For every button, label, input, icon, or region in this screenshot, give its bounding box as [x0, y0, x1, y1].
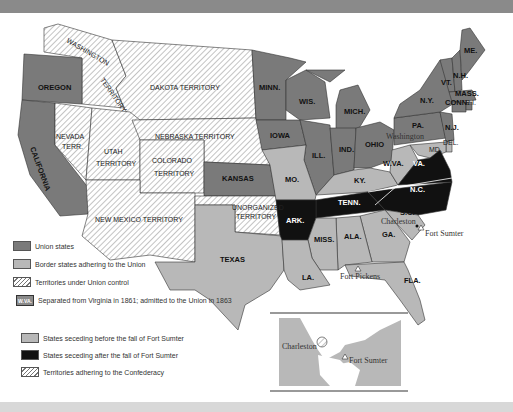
label-del: DEL.	[443, 139, 459, 146]
charleston-inset: Charleston Fort Sumter	[270, 313, 408, 391]
label-unorganized-2: TERRITORY	[236, 213, 277, 220]
colorado-territory	[140, 140, 204, 193]
label-wis: WIS.	[299, 97, 315, 106]
label-washington-city: Washington	[386, 132, 424, 141]
charleston-dot	[416, 225, 419, 228]
legend-label-union: Union states	[35, 243, 74, 250]
swatch-border	[13, 259, 31, 269]
legend-label-territories-confederacy: Territories adhering to the Confederacy	[43, 369, 164, 376]
label-mass: MASS.	[455, 89, 479, 98]
label-mich: MICH.	[344, 107, 365, 116]
label-colorado-2: TERRITORY	[154, 170, 195, 177]
label-sc: S.C.	[400, 208, 415, 217]
label-charleston: Charleston	[381, 217, 416, 226]
wva-badge: W.VA.	[16, 295, 34, 306]
inset-label-charleston: Charleston	[282, 342, 317, 351]
label-iowa: IOWA	[270, 131, 291, 140]
oregon	[22, 54, 82, 104]
label-va: VA.	[413, 159, 425, 168]
dakota-territory	[112, 40, 256, 120]
legend-wva: W.VA. Separated from Virginia in 1861; a…	[16, 295, 232, 306]
label-ri: R.I.	[465, 99, 476, 106]
label-nevada: NEVADA	[56, 133, 85, 140]
utah-territory	[86, 108, 140, 180]
label-ark: ARK.	[286, 216, 304, 225]
swatch-territories-confederacy	[21, 367, 39, 377]
legend-label-seceding-after: States seceding after the fall of Fort S…	[43, 352, 178, 359]
label-md: MD.	[429, 146, 442, 153]
label-ohio: OHIO	[365, 140, 384, 149]
legend-label-wva: Separated from Virginia in 1861; admitte…	[38, 297, 232, 304]
bottom-border	[0, 402, 513, 412]
swatch-territories-union	[13, 277, 31, 287]
legend-territories-union: Territories under Union control	[13, 277, 129, 287]
legend-label-border: Border states adhering to the Union	[35, 261, 146, 268]
label-tenn: TENN.	[338, 198, 361, 207]
inset-label-fort-sumter: Fort Sumter	[349, 356, 388, 365]
label-pa: PA.	[412, 121, 424, 130]
legend-label-territories-union: Territories under Union control	[35, 279, 129, 286]
label-oregon: OREGON	[38, 83, 71, 92]
label-ala: ALA.	[344, 232, 362, 241]
label-nj: N.J.	[445, 123, 459, 132]
label-nevada-2: TERR.	[62, 143, 83, 150]
label-utah-2: TERRITORY	[96, 160, 137, 167]
label-fort-pickens: Fort Pickens	[340, 272, 380, 281]
label-dakota-territory: DAKOTA TERRITORY	[150, 84, 220, 91]
legend-border-states: Border states adhering to the Union	[13, 259, 146, 269]
label-nebraska-territory: NEBRASKA TERRITORY	[155, 133, 235, 140]
legend-territories-confederacy: Territories adhering to the Confederacy	[21, 367, 164, 377]
legend-label-seceding-before: States seceding before the fall of Fort …	[43, 335, 184, 342]
label-ind: IND.	[339, 145, 354, 154]
legend-seceding-before: States seceding before the fall of Fort …	[21, 333, 184, 343]
swatch-union	[13, 241, 31, 251]
label-me: ME.	[464, 46, 477, 55]
label-vt: VT.	[441, 78, 452, 87]
legend-seceding-after: States seceding after the fall of Fort S…	[21, 350, 178, 360]
label-new-mexico-territory: NEW MEXICO TERRITORY	[95, 216, 183, 223]
label-utah: UTAH	[104, 148, 123, 155]
label-nc: N.C.	[410, 185, 425, 194]
label-fort-sumter: Fort Sumter	[425, 229, 464, 238]
label-unorganized: UNORGANIZED	[232, 204, 284, 211]
label-mo: MO.	[285, 175, 299, 184]
label-colorado: COLORADO	[152, 157, 193, 164]
label-ny: N.Y.	[420, 96, 434, 105]
swatch-seceding-after	[21, 350, 39, 360]
label-fla: FLA.	[404, 276, 421, 285]
label-kansas: KANSAS	[222, 174, 254, 183]
label-ga: GA.	[382, 230, 395, 239]
swatch-seceding-before	[21, 333, 39, 343]
label-wva: W.VA.	[383, 159, 404, 168]
label-minn: MINN.	[259, 83, 280, 92]
legend-union-states: Union states	[13, 241, 74, 251]
label-la: LA.	[302, 273, 314, 282]
label-miss: MISS.	[314, 235, 334, 244]
label-texas: TEXAS	[220, 255, 245, 264]
label-nh: N.H.	[453, 71, 468, 80]
label-ill: ILL.	[312, 151, 325, 160]
label-ky: KY.	[354, 176, 366, 185]
